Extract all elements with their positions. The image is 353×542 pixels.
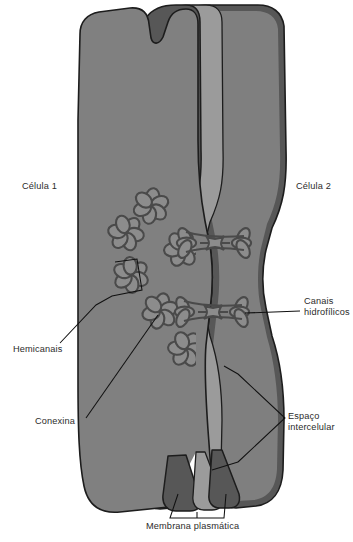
label-plasma-membrane: Membrana plasmática — [146, 521, 239, 532]
label-intercellular-space: Espaço intercelular — [288, 411, 335, 433]
label-cell2: Célula 2 — [296, 181, 331, 192]
cell1-body — [78, 8, 212, 512]
gap-junction-figure — [0, 0, 353, 542]
label-hemichannels: Hemicanais — [13, 344, 63, 355]
label-connexin: Conexina — [35, 416, 75, 427]
diagram-canvas: Célula 1 Célula 2 Canais hidrofílicos Es… — [0, 0, 353, 542]
label-cell1: Célula 1 — [22, 181, 57, 192]
label-hydrophilic-channels: Canais hidrofílicos — [304, 296, 350, 318]
